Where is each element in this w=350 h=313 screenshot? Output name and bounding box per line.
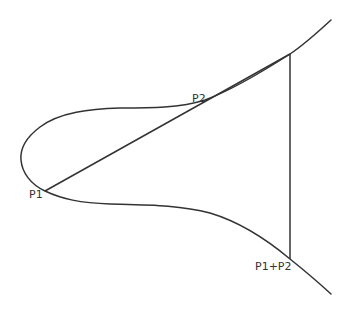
label-p1: P1 (29, 188, 43, 201)
secant-line-p1-p2 (45, 54, 290, 191)
elliptic-curve-diagram: P1 P2 P1+P2 (0, 0, 350, 313)
label-p1-plus-p2: P1+P2 (255, 260, 291, 273)
elliptic-curve (21, 20, 331, 294)
label-p2: P2 (192, 92, 206, 105)
